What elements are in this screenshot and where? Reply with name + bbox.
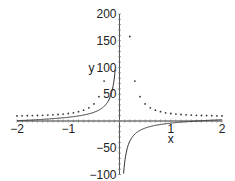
x-axis-label: x [168, 132, 174, 146]
dotted-curve-point [216, 115, 218, 117]
dotted-curve-point [16, 115, 18, 117]
x-tick-label: −1 [61, 122, 75, 136]
dotted-curve-point [185, 114, 187, 116]
dotted-curve-point [93, 103, 95, 105]
dotted-curve-point [32, 115, 34, 117]
dotted-curve-point [134, 80, 136, 82]
dotted-curve-point [83, 109, 85, 111]
y-tick-label: 50 [103, 87, 117, 101]
dotted-curve-point [26, 115, 28, 117]
dotted-curve-point [73, 112, 75, 114]
dotted-curve-point [175, 113, 177, 115]
function-plot: −2−112−100−5050100150200xy [0, 0, 235, 180]
y-tick-label: −100 [89, 168, 116, 181]
dotted-curve-point [221, 115, 223, 117]
x-tick-label: 2 [219, 122, 226, 136]
y-tick-label: 100 [96, 61, 116, 75]
x-tick-label: −2 [10, 122, 24, 136]
dotted-curve-point [67, 113, 69, 115]
dotted-curve-point [160, 111, 162, 113]
dotted-curve-point [180, 114, 182, 116]
dotted-curve-point [21, 115, 23, 117]
dotted-curve-point [139, 96, 141, 98]
dotted-curve-point [211, 115, 213, 117]
dotted-curve-point [149, 107, 151, 109]
y-tick-label: 200 [96, 7, 116, 21]
y-axis-label: y [89, 61, 95, 75]
dotted-curve-point [155, 109, 157, 111]
y-tick-label: 150 [96, 34, 116, 48]
solid-curve [17, 70, 115, 121]
dotted-curve-point [165, 112, 167, 114]
dotted-curve-point [129, 36, 131, 38]
tick-labels: −2−112−100−5050100150200xy [10, 7, 226, 180]
dotted-curve-point [98, 96, 100, 98]
dotted-curve-point [78, 111, 80, 113]
dotted-curve-point [47, 114, 49, 116]
y-tick-label: −50 [96, 141, 117, 155]
dotted-curve-point [144, 103, 146, 105]
dotted-curve-point [52, 114, 54, 116]
dotted-curve-point [206, 115, 208, 117]
dotted-curve-point [170, 113, 172, 115]
dotted-curve-point [37, 115, 39, 117]
dotted-curve-point [103, 80, 105, 82]
dotted-curve-point [57, 114, 59, 116]
dotted-curve-point [42, 114, 44, 116]
dotted-curve-point [62, 113, 64, 115]
dotted-curve-point [201, 115, 203, 117]
dotted-curve-point [190, 114, 192, 116]
dotted-curve-point [196, 114, 198, 116]
axes [17, 14, 222, 175]
dotted-curve-point [88, 107, 90, 109]
